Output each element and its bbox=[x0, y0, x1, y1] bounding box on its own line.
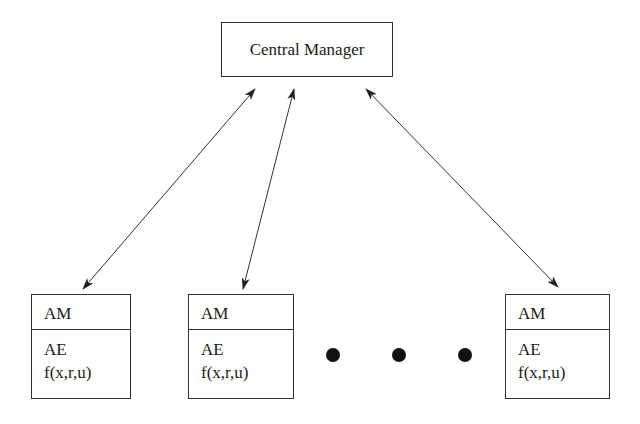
agent-box-1: AM AE f(x,r,u) bbox=[31, 294, 131, 399]
arrow-cm-agent2 bbox=[243, 89, 294, 289]
arrow-cm-agentN bbox=[366, 89, 558, 287]
ellipsis-dot bbox=[326, 348, 340, 362]
arrow-cm-agent1 bbox=[83, 89, 255, 289]
agent-line-func: f(x,r,u) bbox=[44, 361, 130, 384]
diagram-canvas: Central Manager AM AE f(x,r,u) AM AE f(x… bbox=[0, 0, 640, 424]
agent-header: AM bbox=[189, 295, 293, 330]
agent-line-ae: AE bbox=[44, 338, 130, 361]
agent-box-n: AM AE f(x,r,u) bbox=[505, 294, 610, 399]
ellipsis-dot bbox=[392, 348, 406, 362]
ellipsis-dot bbox=[458, 348, 472, 362]
agent-line-func: f(x,r,u) bbox=[201, 361, 293, 384]
agent-line-ae: AE bbox=[201, 338, 293, 361]
central-manager-box: Central Manager bbox=[221, 22, 393, 77]
agent-header: AM bbox=[32, 295, 130, 330]
agent-box-2: AM AE f(x,r,u) bbox=[188, 294, 294, 399]
central-manager-label: Central Manager bbox=[250, 40, 365, 60]
agent-header: AM bbox=[506, 295, 609, 330]
agent-line-ae: AE bbox=[518, 338, 609, 361]
agent-line-func: f(x,r,u) bbox=[518, 361, 609, 384]
